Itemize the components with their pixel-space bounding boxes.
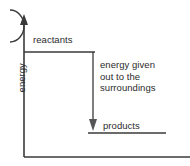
reactants-label: reactants [33, 34, 73, 46]
annotation-line-1: energy given [100, 59, 184, 71]
y-axis-label: energy [16, 50, 28, 106]
annotation-line-3: surroundings [100, 82, 184, 94]
energy-level-diagram: reactants products energy given out to t… [0, 0, 190, 166]
annotation-line-2: out to the [100, 71, 184, 83]
part-marker-bracket [10, 10, 24, 42]
products-label: products [103, 120, 140, 132]
energy-change-annotation: energy given out to the surroundings [100, 59, 184, 94]
energy-change-arrowhead-icon [89, 119, 97, 131]
